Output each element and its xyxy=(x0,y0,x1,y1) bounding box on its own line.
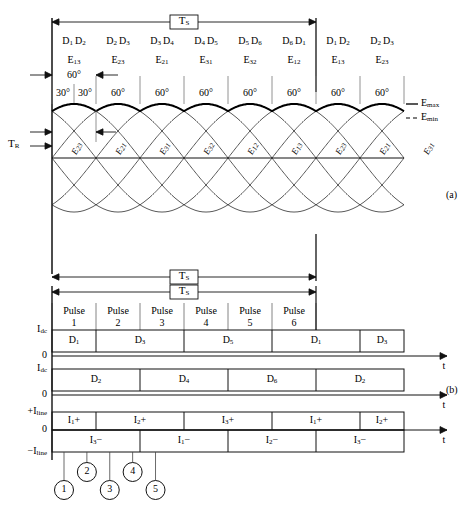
segment-devices-3: D4 D5 xyxy=(194,36,217,47)
pulse-name-0: Pulse xyxy=(63,306,85,316)
row-even-device-3: D2 xyxy=(355,374,366,385)
zero-label-row2: 0 xyxy=(42,389,47,399)
row-odd-device-0: D1 xyxy=(69,335,80,346)
segment-emf-0: E13 xyxy=(67,55,80,66)
callout-number-4: 4 xyxy=(130,466,135,476)
cell-angle-1: 60° xyxy=(111,88,125,98)
row-odd-device-2: D5 xyxy=(223,335,234,346)
pulse-name-4: Pulse xyxy=(239,306,261,316)
row-line-negative-2: I2− xyxy=(266,435,278,446)
pulse-name-1: Pulse xyxy=(107,306,129,316)
row-line-negative-1: I1− xyxy=(178,435,190,446)
callout-number-1: 1 xyxy=(62,484,67,494)
segment-emf-1: E23 xyxy=(111,55,124,66)
row-line-positive-1: I2+ xyxy=(134,415,146,426)
period-label-top: TS xyxy=(179,15,190,27)
pulse-name-2: Pulse xyxy=(151,306,173,316)
zero-label-row1: 0 xyxy=(42,350,47,360)
row-line-positive-0: I1+ xyxy=(68,415,80,426)
first-cell-left-angle: 30° xyxy=(56,88,70,98)
row-even-device-0: D2 xyxy=(91,374,102,385)
first-cell-right-angle: 30° xyxy=(78,88,92,98)
row-line-negative-3: I3− xyxy=(354,435,366,446)
panel-a-label: (a) xyxy=(446,190,457,200)
tr-label: TR xyxy=(8,138,19,150)
time-axis-label-3: t xyxy=(443,435,446,445)
first-cell-total-angle: 60° xyxy=(67,70,81,80)
iline-zero-label: 0 xyxy=(42,424,47,434)
pulse-number-1: 2 xyxy=(116,318,121,328)
callout-number-3: 3 xyxy=(107,484,112,494)
segment-emf-5: E12 xyxy=(287,55,300,66)
segment-devices-0: D1 D2 xyxy=(62,36,85,47)
row-even-device-1: D4 xyxy=(179,374,190,385)
segment-emf-4: E32 xyxy=(243,55,256,66)
segment-devices-7: D2 D3 xyxy=(370,36,393,47)
period-label-mid: TS xyxy=(179,270,190,282)
row-line-positive-2: I3+ xyxy=(222,415,234,426)
row-line-positive-4: I2+ xyxy=(376,415,388,426)
pulse-name-3: Pulse xyxy=(195,306,217,316)
idc-label-row1: Idc xyxy=(37,324,47,335)
iline-positive-label: +Iline xyxy=(28,406,47,417)
time-axis-label-0: t xyxy=(443,361,446,371)
row-even-device-2: D6 xyxy=(267,374,278,385)
segment-devices-5: D6 D1 xyxy=(282,36,305,47)
segment-devices-1: D2 D3 xyxy=(106,36,129,47)
pulse-number-3: 4 xyxy=(204,318,209,328)
segment-emf-3: E31 xyxy=(199,55,212,66)
cell-angle-4: 60° xyxy=(243,88,257,98)
callout-number-5: 5 xyxy=(153,484,158,494)
emax-label: Emax xyxy=(421,98,439,109)
time-axis-label-1: t xyxy=(443,400,446,410)
row-odd-device-4: D3 xyxy=(377,335,388,346)
cell-angle-2: 60° xyxy=(155,88,169,98)
pulse-number-0: 1 xyxy=(72,318,77,328)
segment-devices-6: D1 D2 xyxy=(326,36,349,47)
iline-negative-label: −Iline xyxy=(28,446,47,457)
pulse-number-5: 6 xyxy=(292,318,297,328)
row-odd-device-3: D1 xyxy=(311,335,322,346)
segment-emf-7: E23 xyxy=(375,55,388,66)
period-label-bottom: TS xyxy=(179,285,190,297)
idc-label-row2: Idc xyxy=(37,363,47,374)
segment-emf-6: E13 xyxy=(331,55,344,66)
cell-angle-6: 60° xyxy=(331,88,345,98)
emin-label: Emin xyxy=(421,112,438,123)
row-line-negative-0: I3− xyxy=(90,435,102,446)
cell-angle-7: 60° xyxy=(375,88,389,98)
pulse-name-5: Pulse xyxy=(283,306,305,316)
segment-devices-2: D3 D4 xyxy=(150,36,173,47)
row-line-positive-3: I1+ xyxy=(310,415,322,426)
cell-angle-5: 60° xyxy=(287,88,301,98)
segment-emf-2: E21 xyxy=(155,55,168,66)
callout-number-2: 2 xyxy=(84,466,89,476)
pulse-number-4: 5 xyxy=(248,318,253,328)
figure-root: TS TR Emax Emin (a) (b) TS TS D1 D2E13D2… xyxy=(0,0,476,511)
row-odd-device-1: D3 xyxy=(135,335,146,346)
segment-devices-4: D5 D6 xyxy=(238,36,261,47)
pulse-number-2: 3 xyxy=(160,318,165,328)
panel-b-label: (b) xyxy=(446,385,458,395)
cell-angle-3: 60° xyxy=(199,88,213,98)
